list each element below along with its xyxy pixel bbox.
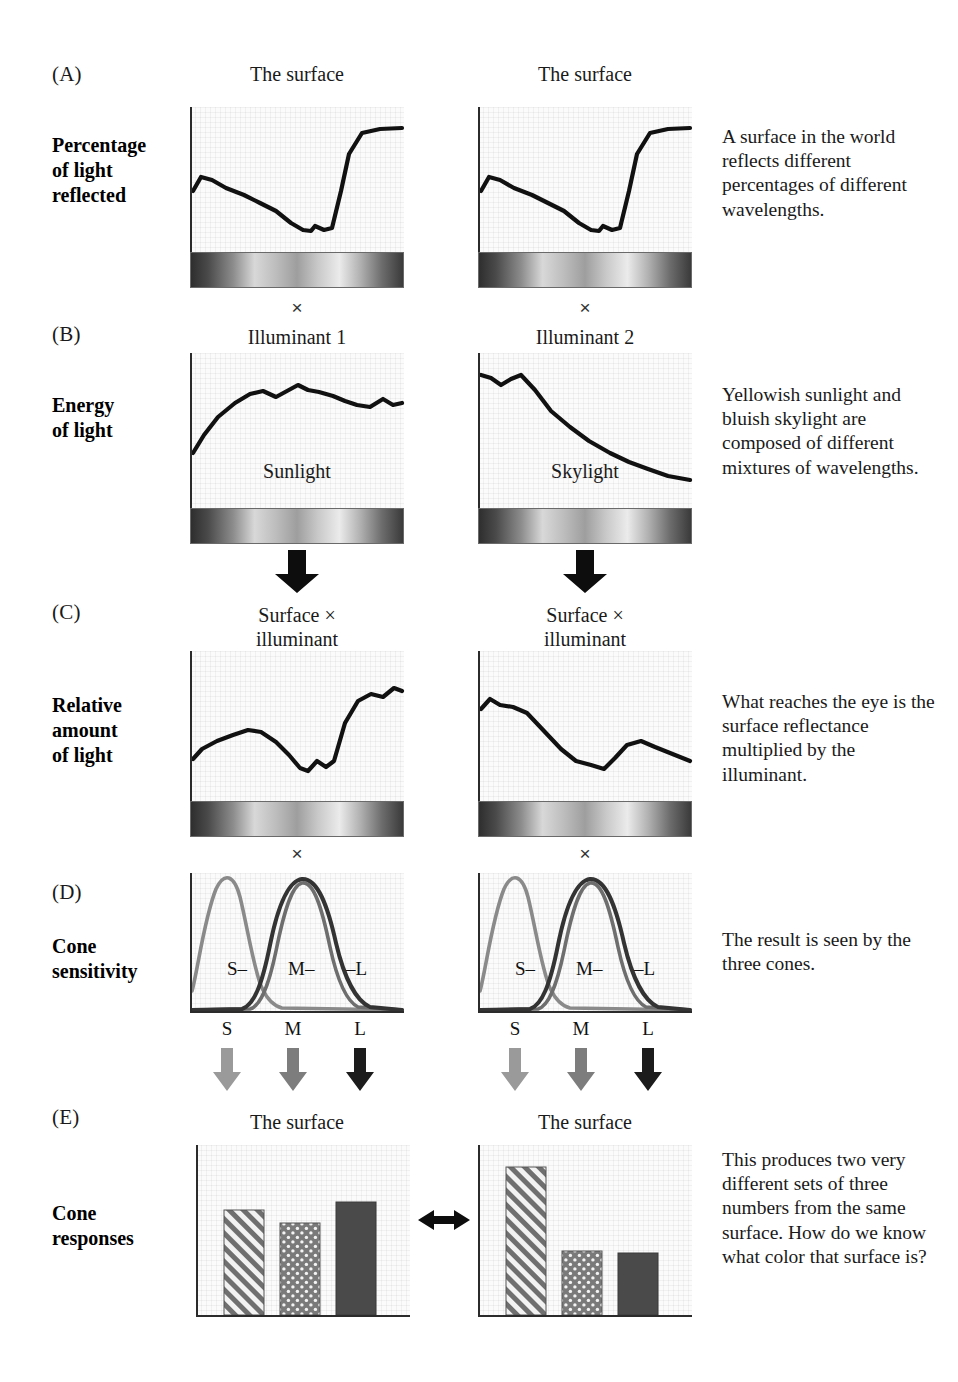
- plot-title-c-right: Surface × illuminant: [478, 603, 692, 651]
- double-arrow-icon: [418, 1206, 470, 1234]
- x-axis: [190, 1011, 404, 1013]
- y-axis: [190, 107, 192, 252]
- operator-times-c-left: ×: [190, 843, 404, 865]
- y-axis: [478, 107, 480, 252]
- spectrum-bar-b-right: [478, 508, 692, 544]
- arrow-down-m-right-icon: [565, 1048, 597, 1092]
- operator-times-a-right: ×: [478, 297, 692, 319]
- curve-c-left: [190, 651, 404, 801]
- y-axis: [196, 1145, 198, 1317]
- arrow-down-l-left-icon: [344, 1048, 376, 1092]
- y-axis: [478, 873, 480, 1013]
- y-axis: [190, 651, 192, 801]
- s-cone-curve: [480, 878, 690, 1010]
- note-e: This produces two very different sets of…: [722, 1148, 944, 1269]
- note-d: The result is seen by the three cones.: [722, 928, 937, 976]
- operator-times-c-right: ×: [478, 843, 692, 865]
- spectrum-bar-b-left: [190, 508, 404, 544]
- panel-letter-e: (E): [52, 1105, 79, 1130]
- bar-s: [224, 1210, 264, 1315]
- x-axis: [196, 1315, 410, 1317]
- graph-b-left: [190, 353, 404, 508]
- y-axis: [478, 353, 480, 508]
- graph-d-left: [190, 873, 404, 1013]
- sml-label-s-right: S: [499, 1018, 531, 1040]
- cone-label-m-d-right: M–: [576, 958, 602, 980]
- plot-title-b-right: Illuminant 2: [478, 325, 692, 349]
- row-label-energy-of-light: Energy of light: [52, 393, 202, 443]
- arrow-down-b-left-icon: [272, 550, 322, 594]
- y-axis: [190, 873, 192, 1013]
- panel-letter-b: (B): [52, 322, 81, 347]
- y-axis: [478, 1145, 480, 1317]
- cone-label-s-d-right: S–: [515, 958, 535, 980]
- graph-b-right: [478, 353, 692, 508]
- arrow-down-s-left-icon: [211, 1048, 243, 1092]
- bar-l: [618, 1253, 658, 1315]
- spectrum-bar-a-right: [478, 252, 692, 288]
- bar-m: [562, 1251, 602, 1315]
- cone-label-m-d-left: M–: [288, 958, 314, 980]
- plot-title-e-right: The surface: [478, 1110, 692, 1134]
- graph-c-right: [478, 651, 692, 801]
- bars-e-right: [478, 1145, 692, 1317]
- bar-s: [506, 1167, 546, 1315]
- plot-title-a-left: The surface: [190, 62, 404, 86]
- sml-label-m-right: M: [565, 1018, 597, 1040]
- plot-title-c-left: Surface × illuminant: [190, 603, 404, 651]
- arrow-down-m-left-icon: [277, 1048, 309, 1092]
- note-b: Yellowish sunlight and bluish skylight a…: [722, 383, 937, 480]
- spectrum-bar-c-left: [190, 801, 404, 837]
- graph-c-left: [190, 651, 404, 801]
- plot-title-a-right: The surface: [478, 62, 692, 86]
- row-label-cone-sensitivity: Cone sensitivity: [52, 934, 202, 984]
- spectrum-bar-c-right: [478, 801, 692, 837]
- sml-label-m-left: M: [277, 1018, 309, 1040]
- sml-label-l-left: L: [344, 1018, 376, 1040]
- spectrum-caption-sunlight: Sunlight: [190, 460, 404, 483]
- arrow-down-b-right-icon: [560, 550, 610, 594]
- m-cone-curve: [480, 883, 690, 1010]
- row-label-relative-amount-of-light: Relative amount of light: [52, 693, 202, 768]
- plot-title-e-left: The surface: [190, 1110, 404, 1134]
- l-cone-curve: [192, 879, 402, 1010]
- note-a: A surface in the world reflects differen…: [722, 125, 937, 222]
- row-label-cone-responses: Cone responses: [52, 1201, 202, 1251]
- cone-curves-d-right: [478, 873, 692, 1013]
- cone-curves-d-left: [190, 873, 404, 1013]
- m-cone-curve: [192, 883, 402, 1010]
- row-label-percentage-of-light-reflected: Percentage of light reflected: [52, 133, 202, 208]
- l-cone-curve: [480, 879, 690, 1010]
- bar-m: [280, 1223, 320, 1315]
- x-axis: [478, 1011, 692, 1013]
- curve-b-right: [478, 353, 692, 508]
- graph-e-right: [478, 1145, 692, 1317]
- bars-e-left: [196, 1145, 410, 1317]
- arrow-down-l-right-icon: [632, 1048, 664, 1092]
- arrow-down-s-right-icon: [499, 1048, 531, 1092]
- operator-times-a-left: ×: [190, 297, 404, 319]
- x-axis: [478, 1315, 692, 1317]
- graph-a-right: [478, 107, 692, 252]
- panel-letter-a: (A): [52, 62, 82, 87]
- sml-label-l-right: L: [632, 1018, 664, 1040]
- s-cone-curve: [192, 878, 402, 1010]
- graph-e-left: [196, 1145, 410, 1317]
- bar-l: [336, 1202, 376, 1315]
- graph-d-right: [478, 873, 692, 1013]
- curve-b-left: [190, 353, 404, 508]
- spectrum-bar-a-left: [190, 252, 404, 288]
- curve-a-left: [190, 107, 404, 252]
- y-axis: [190, 353, 192, 508]
- panel-letter-d: (D): [52, 880, 82, 905]
- note-c: What reaches the eye is the surface refl…: [722, 690, 937, 787]
- sml-label-s-left: S: [211, 1018, 243, 1040]
- cone-label-s-d-left: S–: [227, 958, 247, 980]
- spectrum-caption-skylight: Skylight: [478, 460, 692, 483]
- cone-label-l-d-left: –L: [346, 958, 367, 980]
- curve-c-right: [478, 651, 692, 801]
- y-axis: [478, 651, 480, 801]
- curve-a-right: [478, 107, 692, 252]
- panel-letter-c: (C): [52, 600, 81, 625]
- plot-title-b-left: Illuminant 1: [190, 325, 404, 349]
